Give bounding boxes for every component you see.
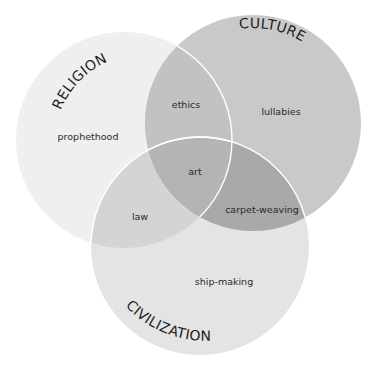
label-lullabies: lullabies: [261, 106, 300, 117]
label-law: law: [132, 211, 148, 222]
label-carpet-weaving: carpet-weaving: [225, 204, 299, 215]
label-art: art: [188, 166, 202, 177]
label-ship-making: ship-making: [195, 276, 253, 287]
venn-diagram: RELIGION CULTURE CIVILIZATION prophethoo…: [0, 0, 376, 367]
label-prophethood: prophethood: [58, 131, 119, 142]
label-ethics: ethics: [172, 99, 200, 110]
